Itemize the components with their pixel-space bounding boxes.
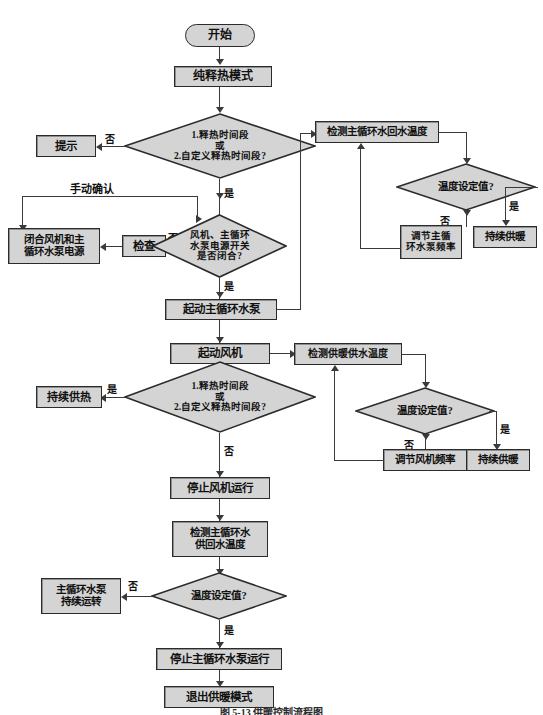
keep-warm-r1-label: 持续供暖 xyxy=(485,231,525,243)
edge-label-yes-r1: 是 xyxy=(509,198,519,213)
edge-fan-to-detect-supply xyxy=(270,353,292,354)
node-detect-supply-return-temp: 检测主循环水 供回水温度 xyxy=(172,521,268,557)
edge-d1-to-prompt xyxy=(100,146,126,147)
adjust-pump-line2: 环水泵频率 xyxy=(406,242,456,253)
node-mode-label: 纯释热模式 xyxy=(193,70,253,83)
edge-label-yes-4: 是 xyxy=(224,622,234,637)
node-decision-power-switch-closed: 风机、主循环 水泵电源开关 是否闭合? xyxy=(152,214,287,278)
node-prompt: 提示 xyxy=(36,135,96,157)
decision2-line2: 水泵电源开关 xyxy=(190,241,250,252)
node-stop-fan-label: 停止风机运行 xyxy=(187,482,253,495)
edge-label-manual-confirm: 手动确认 xyxy=(70,180,114,196)
detect-supply-return-line2: 供回水温度 xyxy=(195,539,245,551)
edge-dr1-yes-v xyxy=(505,187,506,223)
decision2-line1: 风机、主循环 xyxy=(190,230,250,241)
keep-warm-r2-label: 持续供暖 xyxy=(478,454,518,466)
decision5-text: 温度设定值? xyxy=(185,590,252,602)
arrow-d1-to-prompt xyxy=(96,143,102,151)
edge-d5-to-pump-keep xyxy=(125,596,153,597)
node-close-fan-and-pump-power: 闭合风机和主 循环水泵电源 xyxy=(8,228,100,264)
arrow-d1-yes-down xyxy=(216,193,224,199)
edge-adjustfan-feedback-h xyxy=(334,460,384,461)
edge-detect-supply-out xyxy=(402,354,426,355)
arrow-adjustpump-feedback-up xyxy=(357,143,365,149)
edge-label-no-3: 否 xyxy=(224,443,234,458)
edge-adjustpump-feedback-h xyxy=(360,248,401,249)
decision3-line2: 或 xyxy=(174,392,266,403)
node-keep-warm-r2: 持续供暖 xyxy=(466,449,530,471)
node-start-pump-label: 起动主循环水泵 xyxy=(183,303,260,316)
detect-supply-return-line1: 检测主循环水 xyxy=(190,527,250,539)
edge-label-yes-1: 是 xyxy=(224,185,234,200)
edge-check-to-close xyxy=(104,246,122,247)
decision1-line3: 2.自定义释热时间段? xyxy=(174,151,266,162)
edge-detect-return-out xyxy=(439,132,467,133)
edge-d3-to-keep-heat xyxy=(104,397,126,398)
edge-label-no-4: 否 xyxy=(128,578,138,593)
edge-dr1-yes-h2 xyxy=(505,187,530,188)
pump-keep-line1: 主循环水泵 xyxy=(56,584,106,596)
edge-manual-confirm-top xyxy=(22,196,198,197)
node-start-fan-label: 起动风机 xyxy=(198,347,242,360)
arrow-start-to-mode xyxy=(216,59,224,65)
edge-label-no-1: 否 xyxy=(105,131,115,146)
arrow-check-to-close xyxy=(100,243,106,251)
node-detect-heating-supply-temp: 检测供暖供水温度 xyxy=(294,343,402,365)
decision1-line2: 或 xyxy=(174,141,266,152)
decision3-text: 1.释热时间段 或 2.自定义释热时间段? xyxy=(168,381,272,413)
decision3-line3: 2.自定义释热时间段? xyxy=(174,402,266,413)
arrow-d5-to-pump-keep xyxy=(121,593,127,601)
node-pump-keep-running: 主循环水泵 持续运转 xyxy=(41,578,121,614)
edge-pump-to-riser xyxy=(277,309,301,310)
edge-adjustpump-feedback-v xyxy=(360,149,361,249)
node-start-main-pump: 起动主循环水泵 xyxy=(165,299,277,320)
node-decision-heat-release-period-2: 1.释热时间段 或 2.自定义释热时间段? xyxy=(124,361,316,433)
decision-r1-text: 温度设定值? xyxy=(432,181,499,193)
edge-pump-riser-up xyxy=(300,133,301,310)
decision2-text: 风机、主循环 水泵电源开关 是否闭合? xyxy=(184,230,256,262)
arrow-adjustfan-feedback-up xyxy=(331,365,339,371)
node-prompt-label: 提示 xyxy=(55,140,77,153)
close-power-line1: 闭合风机和主 xyxy=(24,234,84,246)
decision1-line1: 1.释热时间段 xyxy=(174,130,266,141)
adjust-fan-label: 调节风机频率 xyxy=(395,454,455,466)
arrow-dr1-no-down xyxy=(463,210,471,216)
arrow-dr2-no-down xyxy=(422,434,430,440)
node-decision-heat-release-period-1: 1.释热时间段 或 2.自定义释热时间段? xyxy=(124,113,316,179)
edge-mode-to-d1 xyxy=(219,87,220,108)
node-exit-heating-mode: 退出供暖模式 xyxy=(164,686,274,708)
edge-label-yes-2: 是 xyxy=(224,278,234,293)
decision1-text: 1.释热时间段 或 2.自定义释热时间段? xyxy=(168,130,272,162)
node-adjust-main-pump-frequency: 调节主循 环水泵频率 xyxy=(400,225,462,259)
adjust-pump-line1: 调节主循 xyxy=(411,231,451,242)
close-power-line2: 循环水泵电源 xyxy=(24,246,84,258)
edge-dr2-yes-v xyxy=(496,411,497,447)
node-stop-fan: 停止风机运行 xyxy=(170,477,270,499)
node-pure-heat-release-mode: 纯释热模式 xyxy=(174,66,272,87)
node-decision-temp-setpoint-r2: 温度设定值? xyxy=(355,387,495,435)
node-keep-warm-r1: 持续供暖 xyxy=(473,226,537,248)
node-detect-main-return-temp: 检测主循环水回水温度 xyxy=(315,121,439,143)
node-stop-main-pump: 停止主循环水泵运行 xyxy=(156,648,282,670)
edge-dr1-yes-h xyxy=(530,187,538,188)
edge-manual-confirm-left xyxy=(22,196,23,227)
edge-adjustfan-feedback-v xyxy=(334,371,335,461)
node-start: 开始 xyxy=(185,24,255,47)
edge-label-yes-r2: 是 xyxy=(500,421,510,436)
node-keep-heating: 持续供热 xyxy=(36,386,102,408)
pump-keep-line2: 持续运转 xyxy=(61,596,101,608)
node-decision-temp-setpoint-main: 温度设定值? xyxy=(151,572,287,620)
node-exit-mode-label: 退出供暖模式 xyxy=(186,691,252,704)
flowchart-canvas: 开始 纯释热模式 1.释热时间段 或 2.自定义释热时间段? 否 提示 是 手动… xyxy=(0,0,543,715)
detect-return-temp-label: 检测主循环水回水温度 xyxy=(327,126,427,138)
node-adjust-fan-frequency: 调节风机频率 xyxy=(383,449,467,471)
edge-label-yes-3: 是 xyxy=(107,381,117,396)
decision3-line1: 1.释热时间段 xyxy=(174,381,266,392)
node-start-label: 开始 xyxy=(208,29,232,42)
figure-caption: 图 5-13 供暖控制流程图 xyxy=(0,706,543,715)
detect-supply-temp-label: 检测供暖供水温度 xyxy=(308,348,388,359)
node-stop-pump-label: 停止主循环水泵运行 xyxy=(170,653,269,666)
arrow-d2-yes-down xyxy=(216,292,224,298)
decision-r2-text: 温度设定值? xyxy=(391,405,458,417)
decision2-line3: 是否闭合? xyxy=(190,251,250,262)
